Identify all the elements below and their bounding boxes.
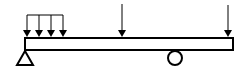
- arrowhead-icon: [23, 30, 31, 37]
- end-point-load: [224, 5, 232, 37]
- arrowhead-icon: [35, 30, 43, 37]
- middle-point-load: [118, 4, 126, 37]
- pin-support-icon: [17, 51, 33, 65]
- arrowhead-icon: [47, 30, 55, 37]
- beam: [25, 38, 233, 50]
- beam-diagram: [0, 0, 247, 78]
- roller-support-icon: [168, 51, 182, 65]
- distributed-load: [23, 15, 67, 37]
- arrowhead-icon: [224, 30, 232, 37]
- arrowhead-icon: [59, 30, 67, 37]
- arrowhead-icon: [118, 30, 126, 37]
